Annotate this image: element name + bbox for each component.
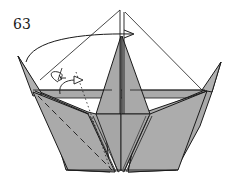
center-right-sail	[122, 36, 150, 114]
unfold-arrow-head	[74, 76, 83, 84]
reference-line-left	[40, 10, 120, 80]
center-left-sail	[96, 36, 121, 114]
origami-diagram	[0, 0, 239, 183]
right-spike	[202, 62, 221, 92]
